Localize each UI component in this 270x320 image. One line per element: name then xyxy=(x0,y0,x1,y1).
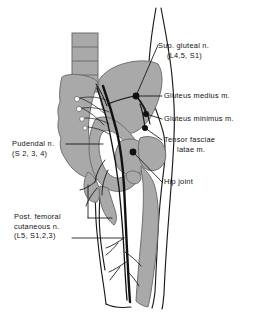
label-post-femoral-line3: (L5, S1,2,3) xyxy=(14,231,61,241)
label-pudendal-line2: (S 2, 3, 4) xyxy=(12,149,54,159)
label-pudendal-nerve: Pudendal n. (S 2, 3, 4) xyxy=(12,139,54,158)
label-post-femoral-cutaneous-nerve: Post. femoral cutaneous n. (L5, S1,2,3) xyxy=(14,212,61,241)
label-pudendal-line1: Pudendal n. xyxy=(12,139,54,148)
label-hip-joint: Hip joint xyxy=(164,177,193,187)
anatomy-illustration xyxy=(0,0,270,320)
label-hip-joint-line1: Hip joint xyxy=(164,177,193,186)
label-tensor-fasciae-latae: Tensor fasciae latae m. xyxy=(164,135,215,154)
label-tensor-fasciae-line2: latae m. xyxy=(164,145,215,155)
label-sup-gluteal-line1: Sup. gluteal n. xyxy=(158,41,209,50)
anatomical-figure: Sup. gluteal n. (L4,5, S1) Gluteus mediu… xyxy=(0,0,270,320)
label-gluteus-minimus-line1: Gluteus minimus m. xyxy=(164,114,234,123)
label-gluteus-medius-line1: Gluteus medius m. xyxy=(164,91,230,100)
label-tensor-fasciae-line1: Tensor fasciae xyxy=(164,135,215,144)
label-post-femoral-line1: Post. femoral xyxy=(14,212,61,221)
label-gluteus-medius: Gluteus medius m. xyxy=(164,91,230,101)
label-sup-gluteal-nerve: Sup. gluteal n. (L4,5, S1) xyxy=(158,41,209,60)
label-sup-gluteal-line2: (L4,5, S1) xyxy=(158,51,209,61)
label-gluteus-minimus: Gluteus minimus m. xyxy=(164,114,234,124)
label-post-femoral-line2: cutaneous n. xyxy=(14,222,61,232)
